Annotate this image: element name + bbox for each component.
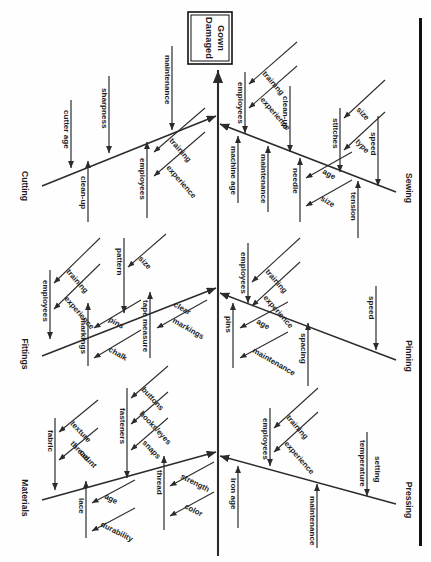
cause-label-fabric: fabric [46, 430, 55, 453]
category-label-pressing: Pressing [404, 482, 414, 518]
cause-label-maintenance-sewing: maintenance [259, 154, 268, 204]
cause-label-spacing: spacing [299, 333, 308, 364]
cause-label-lace: lace [77, 498, 86, 514]
subcause-label-training-pressing: training [284, 413, 310, 441]
branch-fittings: Fittings employees training experience p… [20, 234, 216, 370]
cause-label-markings: markings [79, 318, 88, 354]
cause-label-maintenance-cutting: maintenance [163, 55, 172, 105]
subcause-label-training-sewing: training [260, 69, 286, 97]
cause-label-employees-cutting: employees [138, 158, 147, 200]
subcause-label-durability: durability [99, 520, 135, 544]
cause-label-maintenance-pressing: maintenance [308, 496, 317, 546]
effect-label-line2: Gown [216, 25, 226, 51]
cause-label-setting: setting [373, 456, 382, 483]
subcause-label-size-needle: size [319, 194, 337, 209]
cause-label-employees-pinning: employees [239, 252, 248, 294]
branch-sewing: Sewing employees training experience mac… [220, 42, 414, 238]
subcause-label-maintenance-pins: maintenance [251, 346, 297, 378]
cause-label-employees-sewing: employees [236, 82, 245, 124]
subcause-line-experience-pinning [252, 262, 300, 306]
subcause-label-training-fittings: training [64, 267, 90, 295]
category-label-sewing: Sewing [404, 173, 414, 203]
subcause-label-chalk-markings: chalk [107, 345, 129, 363]
cause-label-speed-pinning: speed [367, 296, 376, 319]
branch-pinning: Pinning employees training experience pi… [220, 238, 414, 386]
cause-label-speed-sewing: speed [369, 132, 378, 155]
cause-label-needle: needle [291, 168, 300, 194]
effect-label-line1: Damaged [204, 17, 214, 59]
subcause-label-size-pattern: size [137, 254, 154, 271]
subcause-label-type-stitches: type [354, 137, 372, 155]
cause-label-cutter-age: cutter age [62, 110, 71, 149]
subcause-label-training-pinning: training [263, 267, 289, 295]
subcause-label-markings-tape: markings [171, 316, 206, 341]
subcause-label-age-lace: age [103, 492, 120, 506]
cause-label-thread: thread [155, 470, 164, 495]
cause-label-tape-measure: tape measure [141, 300, 150, 353]
subcause-label-experience-cutting: experience [164, 163, 198, 200]
fishbone-svg: Damaged Gown Cutting cutter age sharpnes… [0, 0, 431, 562]
cause-label-employees-pressing: employees [261, 418, 270, 460]
cause-label-clean-up-sewing: clean-up [281, 96, 290, 129]
cause-label-stitches: stitches [331, 118, 340, 149]
cause-label-sharpness: sharpness [100, 88, 109, 129]
cause-label-pins: pins [224, 316, 233, 333]
subcause-label-color: color [183, 502, 204, 519]
cause-label-clean-up-cutting: clean-up [79, 176, 88, 209]
category-label-materials: Materials [20, 479, 30, 516]
category-label-pinning: Pinning [404, 340, 414, 372]
category-label-fittings: Fittings [20, 338, 30, 369]
fishbone-diagram-canvas: Damaged Gown Cutting cutter age sharpnes… [0, 0, 431, 562]
cause-label-temperature: temperature [358, 440, 367, 487]
branch-materials: Materials fabric texture thread count la… [20, 366, 216, 544]
cause-label-fasteners: fasteners [118, 408, 127, 444]
subcause-label-size-stitches: size [355, 105, 372, 122]
category-label-cutting: Cutting [20, 171, 30, 201]
subcause-label-strength: strength [179, 472, 211, 494]
subcause-label-experience-pressing: experience [282, 439, 316, 476]
branch-cutting: Cutting cutter age sharpness maintenance… [20, 46, 216, 222]
subcause-label-pins-markings: pins [107, 315, 126, 331]
cause-label-machine-age: machine age [229, 146, 238, 196]
branch-pressing: Pressing employees training experience i… [220, 388, 414, 548]
subcause-label-count: count [78, 448, 99, 470]
subcause-label-age-pins: age [255, 317, 272, 332]
cause-label-employees-fittings: employees [41, 280, 50, 322]
subcause-label-snaps: snaps [141, 438, 163, 461]
cause-label-pattern: pattern [115, 248, 124, 275]
cause-label-iron-age: iron age [229, 478, 238, 510]
cause-label-tension: tension [349, 192, 358, 221]
effect-box: Damaged Gown [188, 12, 232, 64]
subcause-label-training-cutting: training [167, 136, 193, 164]
